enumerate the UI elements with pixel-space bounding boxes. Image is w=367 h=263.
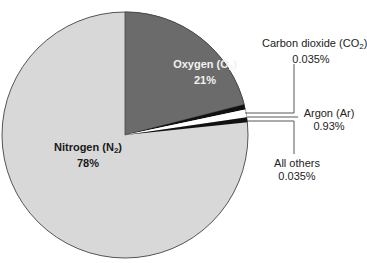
label-others-name: All others [262, 157, 332, 170]
label-oxygen-close: ) [233, 58, 237, 70]
label-co2-pct: 0.035% [262, 53, 360, 66]
label-argon-pct: 0.93% [300, 120, 358, 133]
label-argon: Argon (Ar) 0.93% [300, 107, 358, 133]
label-others-pct: 0.035% [262, 170, 332, 183]
callout-lines [245, 64, 298, 154]
label-nitrogen-close: ) [118, 141, 122, 153]
label-oxygen-name: Oxygen (O [173, 58, 229, 70]
label-co2-name: Carbon dioxide (CO [262, 37, 359, 49]
label-nitrogen: Nitrogen (N2) 78% [38, 141, 138, 170]
label-oxygen-pct: 21% [160, 74, 250, 87]
label-argon-name: Argon (Ar) [300, 107, 358, 120]
label-nitrogen-name: Nitrogen (N [54, 141, 114, 153]
label-others: All others 0.035% [262, 157, 332, 183]
label-nitrogen-pct: 78% [38, 157, 138, 170]
label-oxygen: Oxygen (O2) 21% [160, 58, 250, 87]
label-co2: Carbon dioxide (CO2) 0.035% [262, 37, 360, 66]
